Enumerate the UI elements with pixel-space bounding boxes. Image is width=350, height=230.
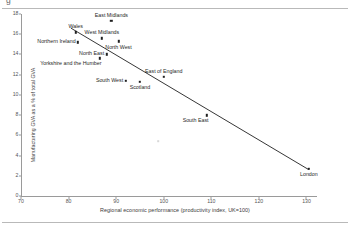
y-tick-mark: [19, 115, 22, 116]
y-tick-mark: [19, 175, 22, 176]
data-point: [101, 37, 103, 39]
data-point-label: East Midlands: [95, 13, 128, 18]
data-point: [117, 40, 119, 42]
bottom-rule: [2, 222, 348, 223]
y-tick-mark: [19, 74, 22, 75]
y-tick-label: 4: [16, 153, 19, 158]
data-point-label: South East: [183, 118, 209, 123]
y-tick-mark: [19, 94, 22, 95]
data-point: [98, 57, 100, 59]
y-tick-label: 8: [16, 113, 19, 118]
y-tick-label: 16: [13, 32, 19, 37]
data-point: [110, 20, 112, 22]
data-point: [105, 53, 107, 55]
x-axis-title: Regional economic performance (productiv…: [100, 207, 250, 213]
faint-artifact-mark: [157, 140, 159, 142]
y-axis-title: Manufacturing GVA as a % of total GVA: [30, 68, 36, 163]
top-rule: [2, 8, 348, 9]
data-point-label: Northern Ireland: [37, 40, 75, 45]
y-tick-label: 2: [16, 173, 19, 178]
x-tick-label: 70: [18, 199, 24, 204]
data-point-label: West Midlands: [85, 30, 120, 35]
data-point-label: Scotland: [130, 85, 151, 90]
data-point-label: North West: [105, 45, 131, 50]
data-point-label: Yorkshire and the Humber: [40, 62, 101, 67]
x-tick-label: 80: [66, 199, 72, 204]
data-point-label: South West: [96, 78, 123, 83]
x-axis-line: [21, 196, 317, 197]
figure-container: g 024681012141618708090100110120130East …: [0, 0, 350, 230]
data-point-label: East of England: [145, 69, 182, 74]
data-point: [124, 80, 126, 82]
data-point-label: London: [300, 172, 318, 177]
y-tick-mark: [19, 135, 22, 136]
y-tick-mark: [19, 54, 22, 55]
data-point: [77, 41, 79, 43]
x-tick-label: 110: [207, 199, 215, 204]
y-tick-label: 12: [13, 72, 19, 77]
y-tick-label: 10: [13, 92, 19, 97]
data-point: [163, 75, 165, 77]
y-tick-mark: [19, 155, 22, 156]
x-tick-label: 130: [302, 199, 311, 204]
cut-off-title-text: g: [6, 0, 11, 5]
data-point: [205, 114, 207, 116]
x-tick-label: 90: [113, 199, 119, 204]
x-tick-label: 120: [255, 199, 264, 204]
data-point: [139, 81, 141, 83]
y-tick-label: 18: [13, 11, 19, 16]
data-point: [308, 167, 310, 169]
y-tick-label: 6: [16, 133, 19, 138]
y-tick-label: 14: [13, 52, 19, 57]
data-point: [75, 31, 77, 33]
data-point-label: Wales: [68, 24, 83, 29]
plot-area: 024681012141618708090100110120130East Mi…: [21, 14, 316, 196]
data-point-label: North East: [79, 52, 104, 57]
y-tick-mark: [19, 34, 22, 35]
y-tick-mark: [19, 14, 22, 15]
x-tick-label: 100: [159, 199, 168, 204]
